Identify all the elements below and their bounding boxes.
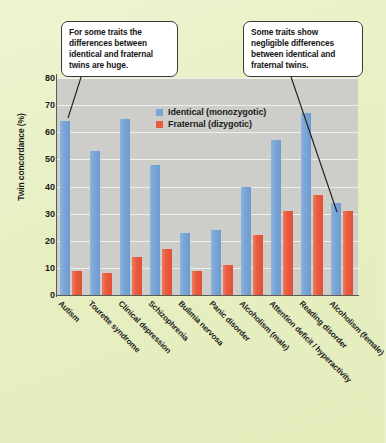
bar-identical xyxy=(331,203,341,295)
legend-label: Fraternal (dizygotic) xyxy=(168,119,252,129)
bar-identical xyxy=(150,165,160,295)
x-axis-line xyxy=(56,295,359,296)
callout-right: Some traits show negligible differences … xyxy=(243,21,363,77)
bar-group xyxy=(87,78,117,295)
bar-group xyxy=(328,78,358,295)
x-tick-label: Clinical depression xyxy=(117,299,173,355)
legend-item: Identical (monozygotic) xyxy=(156,106,266,118)
y-tick-label: 0 xyxy=(50,290,55,300)
y-tick-label: 70 xyxy=(45,100,55,110)
y-axis-ticks: 01020304050607080 xyxy=(38,70,58,303)
bar-fraternal xyxy=(192,271,202,295)
bar-group xyxy=(298,78,328,295)
bar-fraternal xyxy=(102,273,112,295)
x-axis-ticks: AutismTourette syndromeClinical depressi… xyxy=(57,299,377,439)
y-axis-title: Twin concordance (%) xyxy=(16,92,26,222)
bar-identical xyxy=(301,113,311,295)
callout-left: For some traits the differences between … xyxy=(61,21,178,77)
bar-group xyxy=(117,78,147,295)
y-tick-label: 10 xyxy=(45,263,55,273)
x-tick-label: Alcoholism (female) xyxy=(328,299,386,357)
bar-fraternal xyxy=(72,271,82,295)
y-tick-label: 80 xyxy=(45,73,55,83)
y-tick-label: 50 xyxy=(45,154,55,164)
y-tick-label: 30 xyxy=(45,209,55,219)
bar-group xyxy=(268,78,298,295)
bar-identical xyxy=(90,151,100,295)
bar-fraternal xyxy=(283,211,293,295)
bar-fraternal xyxy=(343,211,353,295)
y-tick-label: 40 xyxy=(45,182,55,192)
bar-identical xyxy=(120,119,130,295)
bar-fraternal xyxy=(162,249,172,295)
x-tick-label: Tourette syndrome xyxy=(87,299,142,354)
legend-item: Fraternal (dizygotic) xyxy=(156,118,266,130)
y-tick-label: 60 xyxy=(45,127,55,137)
legend: Identical (monozygotic)Fraternal (dizygo… xyxy=(153,104,270,132)
bar-fraternal xyxy=(313,195,323,295)
bar-identical xyxy=(241,187,251,296)
bar-group xyxy=(57,78,87,295)
bar-fraternal xyxy=(253,235,263,295)
bar-identical xyxy=(271,140,281,295)
bar-identical xyxy=(180,233,190,295)
legend-swatch-fraternal xyxy=(156,121,163,128)
bar-identical xyxy=(211,230,221,295)
x-tick-label: Autism xyxy=(57,299,82,324)
bar-identical xyxy=(60,121,70,295)
bar-fraternal xyxy=(132,257,142,295)
legend-swatch-identical xyxy=(156,109,163,116)
bar-fraternal xyxy=(223,265,233,295)
legend-label: Identical (monozygotic) xyxy=(168,107,266,117)
y-tick-label: 20 xyxy=(45,236,55,246)
